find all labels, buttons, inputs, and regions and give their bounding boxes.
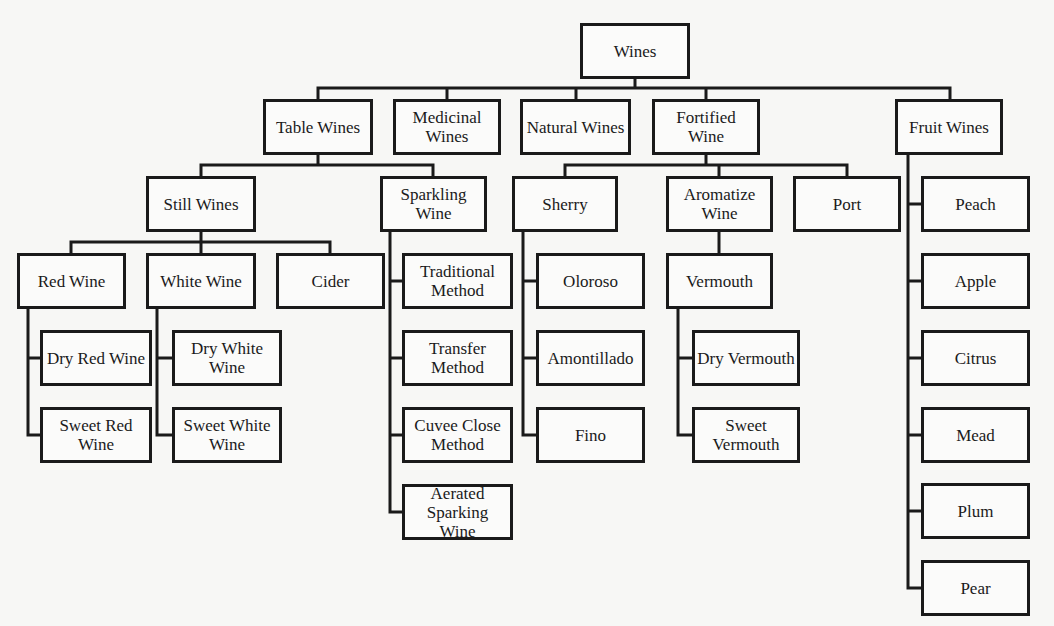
- node-cider: Cider: [276, 253, 385, 309]
- node-dry-red-wine: Dry Red Wine: [40, 330, 152, 386]
- connector-table-wines: [201, 155, 433, 176]
- node-port: Port: [793, 176, 901, 232]
- node-fortified-wine: Fortified Wine: [652, 99, 760, 155]
- node-table-wines: Table Wines: [263, 99, 373, 155]
- node-pear: Pear: [921, 560, 1030, 616]
- node-sweet-red-wine: Sweet Red Wine: [40, 407, 152, 463]
- node-dry-white-wine: Dry White Wine: [172, 330, 282, 386]
- node-medicinal-wines: Medicinal Wines: [393, 99, 501, 155]
- node-sweet-white-wine: Sweet White Wine: [172, 407, 282, 463]
- node-sparkling-wine: Sparkling Wine: [380, 176, 487, 232]
- node-peach: Peach: [921, 176, 1030, 232]
- node-transfer-method: Transfer Method: [402, 330, 513, 386]
- node-sherry: Sherry: [512, 176, 618, 232]
- node-fruit-wines: Fruit Wines: [895, 99, 1003, 155]
- connector-still-wines: [71, 232, 330, 253]
- connector-fortified-wine: [565, 155, 847, 176]
- node-natural-wines: Natural Wines: [520, 99, 631, 155]
- node-oloroso: Oloroso: [536, 253, 645, 309]
- node-aromatize-wine: Aromatize Wine: [666, 176, 773, 232]
- connector-sparkling-wine: [390, 232, 402, 512]
- node-still-wines: Still Wines: [146, 176, 256, 232]
- connector-white-wine: [157, 309, 172, 435]
- node-wines: Wines: [580, 23, 690, 79]
- node-dry-vermouth: Dry Vermouth: [692, 330, 800, 386]
- node-fino: Fino: [536, 407, 645, 463]
- connector-fruit-wines: [908, 155, 921, 588]
- node-apple: Apple: [921, 253, 1030, 309]
- node-cuvee-close-method: Cuvee Close Method: [402, 407, 513, 463]
- wine-classification-diagram: Wines Table Wines Medicinal Wines Natura…: [0, 0, 1054, 626]
- connector-lines: [0, 0, 1054, 626]
- node-sweet-vermouth: Sweet Vermouth: [692, 407, 800, 463]
- node-plum: Plum: [921, 483, 1030, 539]
- node-traditional-method: Traditional Method: [402, 253, 513, 309]
- connector-sherry: [523, 232, 536, 435]
- node-amontillado: Amontillado: [536, 330, 645, 386]
- connector-vermouth: [678, 309, 692, 435]
- node-red-wine: Red Wine: [17, 253, 126, 309]
- node-aerated-sparking-wine: Aerated Sparking Wine: [402, 484, 513, 540]
- node-mead: Mead: [921, 407, 1030, 463]
- connector-wines: [318, 79, 950, 99]
- connector-red-wine: [28, 309, 40, 435]
- node-white-wine: White Wine: [146, 253, 256, 309]
- node-vermouth: Vermouth: [666, 253, 773, 309]
- node-citrus: Citrus: [921, 330, 1030, 386]
